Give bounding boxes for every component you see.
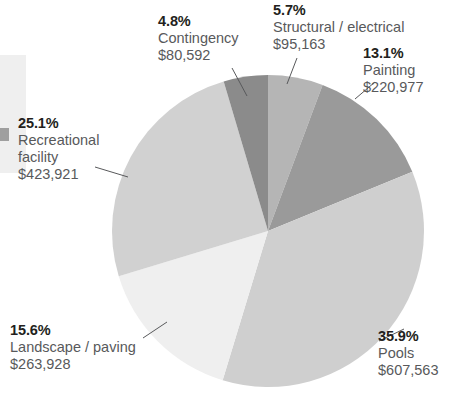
slice-value-recreational: $423,921: [18, 166, 99, 183]
leader-line-recreational: [95, 167, 128, 177]
slice-name-landscape: Landscape / paving: [10, 339, 136, 356]
slice-value-pools: $607,563: [378, 362, 438, 379]
slice-percent-structural: 5.7%: [273, 2, 404, 19]
slice-percent-contingency: 4.8%: [158, 13, 239, 30]
pie-chart-figure: 5.7% Structural / electrical $95,163 13.…: [0, 0, 471, 401]
slice-label-landscape: 15.6% Landscape / paving $263,928: [10, 322, 136, 373]
slice-label-painting: 13.1% Painting $220,977: [363, 45, 423, 96]
slice-name-painting: Painting: [363, 62, 423, 79]
slice-name-pools: Pools: [378, 345, 438, 362]
slice-value-contingency: $80,592: [158, 47, 239, 64]
slice-percent-landscape: 15.6%: [10, 322, 136, 339]
slice-percent-recreational: 25.1%: [18, 115, 99, 132]
slice-label-pools: 35.9% Pools $607,563: [378, 328, 438, 379]
slice-value-painting: $220,977: [363, 79, 423, 96]
slice-name-recreational-line1: Recreational: [18, 132, 99, 149]
slice-name-recreational-line2: facility: [18, 149, 99, 166]
slice-label-contingency: 4.8% Contingency $80,592: [158, 13, 239, 64]
slice-percent-pools: 35.9%: [378, 328, 438, 345]
slice-label-recreational: 25.1% Recreational facility $423,921: [18, 115, 99, 183]
slice-percent-painting: 13.1%: [363, 45, 423, 62]
slice-name-structural: Structural / electrical: [273, 19, 404, 36]
slice-name-contingency: Contingency: [158, 30, 239, 47]
slice-value-landscape: $263,928: [10, 356, 136, 373]
